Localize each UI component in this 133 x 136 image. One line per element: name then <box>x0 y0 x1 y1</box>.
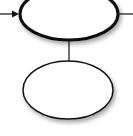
top-node[interactable] <box>20 0 118 40</box>
incoming-arrow <box>0 11 19 18</box>
bottom-node[interactable] <box>23 61 113 119</box>
arrowhead-icon <box>12 11 19 18</box>
diagram-canvas <box>0 0 133 136</box>
